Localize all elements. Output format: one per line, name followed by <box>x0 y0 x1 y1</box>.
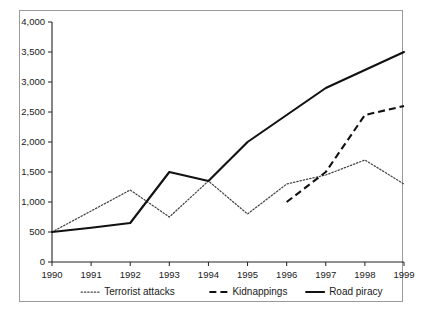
chart-legend: Terrorist attacksKidnappingsRoad piracy <box>81 286 382 297</box>
data-series-group <box>52 52 404 232</box>
x-axis: 1990199119921993199419951996199719981999 <box>41 262 414 280</box>
series-line-road-piracy <box>52 52 404 232</box>
y-tick-label: 1,500 <box>21 166 45 177</box>
legend-item-road-piracy: Road piracy <box>306 286 382 297</box>
x-tick-label: 1991 <box>81 269 102 280</box>
x-tick-label: 1993 <box>159 269 180 280</box>
x-tick-label: 1996 <box>276 269 297 280</box>
y-tick-label: 3,000 <box>21 76 45 87</box>
x-tick-label: 1994 <box>198 269 219 280</box>
x-tick-label: 1998 <box>354 269 375 280</box>
y-axis: 05001,0001,5002,0002,5003,0003,5004,000 <box>21 16 52 267</box>
y-tick-label: 3,500 <box>21 46 45 57</box>
y-tick-label: 1,000 <box>21 196 45 207</box>
legend-item-terrorist-attacks: Terrorist attacks <box>81 286 175 297</box>
line-chart: 05001,0001,5002,0002,5003,0003,5004,000 … <box>0 0 421 313</box>
x-tick-label: 1992 <box>120 269 141 280</box>
plot-area-wrapper: 05001,0001,5002,0002,5003,0003,5004,000 … <box>0 0 421 313</box>
y-tick-label: 2,000 <box>21 136 45 147</box>
series-line-kidnappings <box>287 106 404 202</box>
legend-item-kidnappings: Kidnappings <box>209 286 287 297</box>
y-tick-label: 2,500 <box>21 106 45 117</box>
x-tick-label: 1999 <box>393 269 414 280</box>
y-tick-label: 0 <box>40 256 45 267</box>
x-tick-label: 1995 <box>237 269 258 280</box>
x-tick-label: 1990 <box>41 269 62 280</box>
y-tick-label: 500 <box>29 226 45 237</box>
legend-label: Road piracy <box>329 286 382 297</box>
legend-label: Kidnappings <box>232 286 287 297</box>
x-tick-label: 1997 <box>315 269 336 280</box>
series-line-terrorist-attacks <box>52 160 404 232</box>
y-tick-label: 4,000 <box>21 16 45 27</box>
chart-figure: 05001,0001,5002,0002,5003,0003,5004,000 … <box>0 0 421 313</box>
legend-label: Terrorist attacks <box>104 286 175 297</box>
